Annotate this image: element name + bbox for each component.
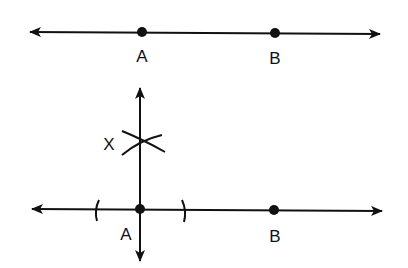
- bottom-point-a: [135, 204, 145, 214]
- top-label-b: B: [269, 49, 280, 68]
- construction-arc-2: [122, 135, 162, 155]
- tick-arc-right: [182, 200, 185, 222]
- bottom-label-b: B: [269, 227, 280, 246]
- bottom-figure: X A B: [32, 88, 382, 261]
- bottom-point-b: [269, 205, 279, 215]
- bottom-label-a: A: [120, 225, 132, 244]
- bottom-line: [32, 209, 382, 211]
- top-line: [30, 32, 380, 34]
- perpendicular-construction-diagram: A B X A B: [0, 0, 408, 268]
- top-point-a: [137, 27, 147, 37]
- top-figure: A B: [30, 27, 380, 68]
- x-mark-label: X: [103, 135, 114, 154]
- top-point-b: [270, 28, 280, 38]
- top-label-a: A: [136, 47, 148, 66]
- tick-arc-left: [96, 200, 99, 221]
